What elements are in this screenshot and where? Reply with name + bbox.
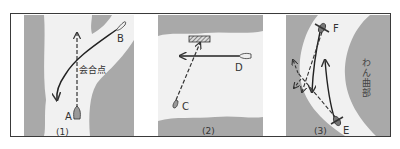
panel-2-number: (2) bbox=[202, 126, 215, 136]
label-b: B bbox=[117, 33, 124, 44]
panel-1: A B 会合点 (1) bbox=[24, 15, 134, 137]
panel-3: F E (3) bbox=[286, 15, 390, 136]
label-f: F bbox=[333, 23, 339, 34]
river-diagrams: A B 会合点 (1) D C (2) bbox=[0, 0, 400, 149]
boat-d-icon bbox=[239, 53, 251, 58]
panel-2: D C (2) bbox=[158, 15, 263, 136]
panel-1-number: (1) bbox=[56, 127, 69, 137]
label-d: D bbox=[235, 62, 243, 73]
label-c: C bbox=[182, 101, 189, 112]
left-bank bbox=[24, 15, 46, 136]
meeting-point-label: 会合点 bbox=[79, 64, 106, 75]
label-a: A bbox=[65, 111, 72, 122]
label-e: E bbox=[343, 125, 349, 136]
bend-label: わん曲部 bbox=[360, 58, 373, 98]
dock-hatched bbox=[189, 36, 210, 42]
panel-3-number: (3) bbox=[314, 126, 327, 136]
